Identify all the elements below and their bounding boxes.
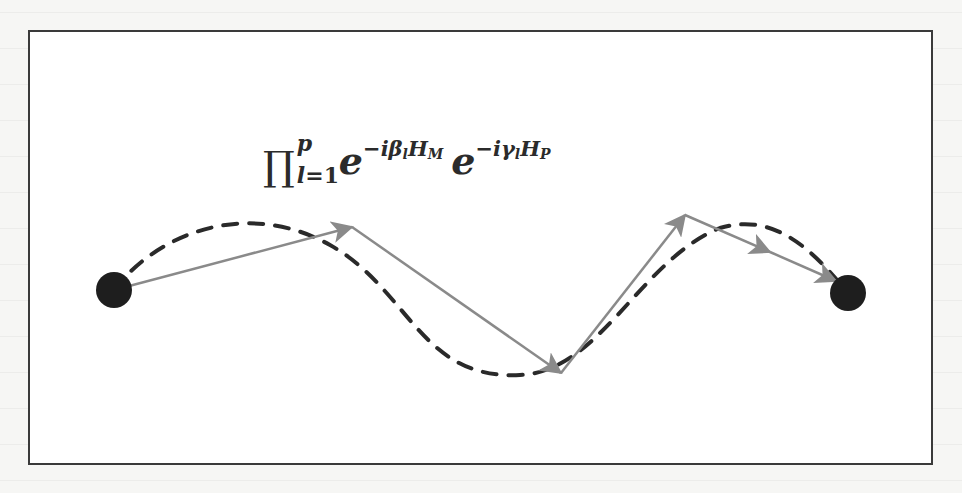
term1-exponent: −iβlHM <box>363 136 443 161</box>
term1-hamiltonian-sub: M <box>428 146 444 162</box>
arrow-segment-4a <box>685 215 770 252</box>
dashed-curve <box>114 223 848 375</box>
term1-exp-text: −iβ <box>363 136 403 161</box>
index-start: =1 <box>305 162 339 188</box>
path-diagram <box>0 0 962 493</box>
product-upper: p <box>297 132 312 154</box>
arrow-segment-1 <box>114 227 352 290</box>
start-node <box>96 272 132 308</box>
term2-hamiltonian: H <box>520 136 540 161</box>
qaoa-formula: ∏pl=1e−iβlHMe−iγlHP <box>263 138 551 186</box>
solid-arrow-path <box>114 215 836 373</box>
product-lower: l=1 <box>297 164 339 186</box>
arrow-segment-2 <box>352 227 561 373</box>
index-var: l <box>297 162 305 188</box>
term2-base: e <box>451 138 475 183</box>
term1-base: e <box>339 138 363 183</box>
arrow-segment-3 <box>561 215 685 373</box>
term2-exp-text: −iγ <box>475 136 514 161</box>
product-limits: pl=1 <box>295 144 339 184</box>
product-symbol: ∏ <box>263 143 295 189</box>
arrow-segment-4b <box>770 252 836 281</box>
term1-hamiltonian: H <box>408 136 428 161</box>
end-node <box>830 275 866 311</box>
term2-exponent: −iγlHP <box>475 136 550 161</box>
term2-hamiltonian-sub: P <box>540 146 551 162</box>
